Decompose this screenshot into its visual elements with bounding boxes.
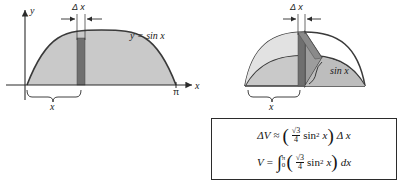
sin-exponent-1: 2 (316, 132, 320, 139)
x-axis-label: x (194, 80, 200, 91)
delta-x-label-left: Δ x (71, 2, 85, 12)
y-axis-label: y (29, 5, 35, 16)
delta-x-differential: Δ x (337, 130, 351, 141)
x-brace-label: x (49, 101, 55, 112)
sin-function-2: sin (307, 157, 320, 168)
curve-equation-label: y = sin x (129, 30, 165, 41)
fraction-denominator-1: 4 (292, 135, 300, 144)
integral-lower-limit: 0 (282, 162, 286, 169)
equals-relation: = (267, 157, 273, 168)
x-brace-right (248, 90, 300, 102)
solid-diagram: Δ x sin x x (245, 2, 365, 112)
fraction-denominator-2: 4 (296, 162, 304, 171)
x-brace-label-right: x (268, 101, 274, 112)
formula-box: ΔV ≈ ( √3 4 sin2 x ) Δ x V = ∫ π 0 ( √3 … (211, 118, 397, 180)
delta-x-label-right: Δ x (289, 2, 303, 12)
fraction-numerator-1: √3 (291, 127, 301, 135)
delta-v-lhs: ΔV (257, 130, 270, 141)
pi-tick-label: π (173, 87, 179, 97)
approx-relation: ≈ (273, 130, 279, 141)
formula-line-volume: V = ∫ π 0 ( √3 4 sin2 x ) dx (257, 154, 351, 172)
slab-rect (77, 38, 85, 85)
volume-lhs: V (257, 157, 264, 168)
integral-symbol-group: ∫ π 0 (277, 155, 285, 170)
sin-function-1: sin (303, 130, 316, 141)
fraction-numerator-2: √3 (295, 154, 305, 162)
integral-limits: π 0 (282, 155, 286, 170)
formula-line-delta-v: ΔV ≈ ( √3 4 sin2 x ) Δ x (257, 127, 350, 145)
plane-region-diagram: y x π y = sin x Δ x x (6, 2, 200, 112)
sqrt3-over-4-fraction-2: √3 4 (295, 154, 305, 172)
cross-section-label: sin x (330, 65, 349, 76)
sqrt3-over-4-fraction-1: √3 4 (291, 127, 301, 145)
sin-exponent-2: 2 (320, 159, 324, 166)
dx-differential: dx (341, 157, 351, 168)
